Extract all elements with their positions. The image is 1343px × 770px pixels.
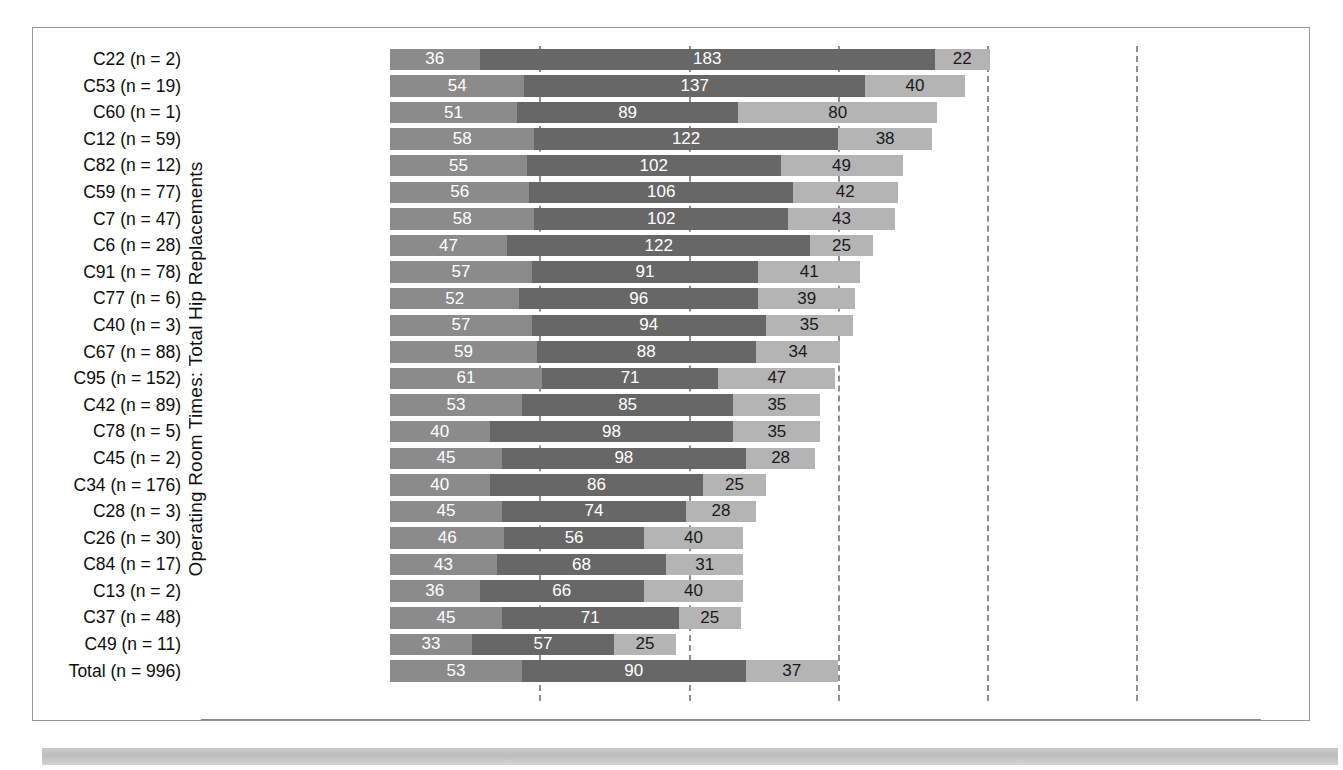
bar-segment-2: 122 bbox=[507, 235, 811, 257]
bar-segment-1: 43 bbox=[390, 554, 497, 576]
bar-segment-2: 57 bbox=[472, 634, 614, 656]
segment-value-label: 40 bbox=[684, 528, 703, 548]
bar-segment-3: 35 bbox=[733, 394, 820, 416]
segment-value-label: 25 bbox=[725, 475, 744, 495]
stacked-bar: 409835 bbox=[390, 421, 820, 443]
row-label: C28 (n = 3) bbox=[93, 498, 189, 525]
segment-value-label: 94 bbox=[639, 315, 658, 335]
bar-segment-3: 25 bbox=[679, 607, 741, 629]
chart-rows: C22 (n = 2)3618322C53 (n = 19)5413740C60… bbox=[33, 46, 1311, 684]
bar-segment-1: 57 bbox=[390, 315, 532, 337]
chart-row: Total (n = 996)539037 bbox=[33, 658, 1311, 685]
stacked-bar: 5812238 bbox=[390, 128, 932, 150]
chart-row: C12 (n = 59)5812238 bbox=[33, 126, 1311, 153]
row-label: C6 (n = 28) bbox=[93, 232, 189, 259]
bar-segment-1: 58 bbox=[390, 128, 534, 150]
segment-value-label: 122 bbox=[672, 129, 700, 149]
stacked-bar: 4712225 bbox=[390, 235, 873, 257]
row-label: C82 (n = 12) bbox=[83, 152, 189, 179]
segment-value-label: 53 bbox=[446, 395, 465, 415]
chart-row: C6 (n = 28)4712225 bbox=[33, 232, 1311, 259]
chart-row: C26 (n = 30)465640 bbox=[33, 525, 1311, 552]
chart-row: C45 (n = 2)459828 bbox=[33, 445, 1311, 472]
bar-segment-2: 122 bbox=[534, 128, 838, 150]
bar-segment-3: 31 bbox=[666, 554, 743, 576]
chart-row: C60 (n = 1)518980 bbox=[33, 99, 1311, 126]
row-label: C49 (n = 11) bbox=[85, 631, 189, 658]
bar-segment-2: 102 bbox=[534, 208, 788, 230]
segment-value-label: 61 bbox=[456, 368, 475, 388]
segment-value-label: 47 bbox=[767, 368, 786, 388]
segment-value-label: 59 bbox=[454, 342, 473, 362]
bar-segment-3: 34 bbox=[756, 341, 841, 363]
row-label: C67 (n = 88) bbox=[83, 339, 189, 366]
segment-value-label: 102 bbox=[640, 156, 668, 176]
stacked-bar: 408625 bbox=[390, 474, 766, 496]
segment-value-label: 39 bbox=[797, 289, 816, 309]
chart-row: C95 (n = 152)617147 bbox=[33, 365, 1311, 392]
bar-segment-1: 56 bbox=[390, 182, 529, 204]
row-label: C45 (n = 2) bbox=[93, 445, 189, 472]
bar-segment-1: 36 bbox=[390, 49, 480, 71]
figure-frame: C22 (n = 2)3618322C53 (n = 19)5413740C60… bbox=[32, 27, 1310, 721]
segment-value-label: 56 bbox=[565, 528, 584, 548]
bar-segment-2: 68 bbox=[497, 554, 666, 576]
bar-segment-1: 55 bbox=[390, 155, 527, 177]
chart-plot-area: C22 (n = 2)3618322C53 (n = 19)5413740C60… bbox=[33, 28, 1311, 722]
segment-value-label: 98 bbox=[614, 448, 633, 468]
bar-segment-3: 49 bbox=[781, 155, 903, 177]
chart-row: C49 (n = 11)335725 bbox=[33, 631, 1311, 658]
segment-value-label: 66 bbox=[552, 581, 571, 601]
segment-value-label: 68 bbox=[572, 555, 591, 575]
row-label: C59 (n = 77) bbox=[83, 179, 189, 206]
bar-segment-1: 36 bbox=[390, 580, 480, 602]
bar-segment-3: 38 bbox=[838, 128, 933, 150]
segment-value-label: 35 bbox=[767, 422, 786, 442]
bar-segment-2: 71 bbox=[542, 368, 719, 390]
bar-segment-3: 25 bbox=[810, 235, 872, 257]
segment-value-label: 57 bbox=[534, 634, 553, 654]
bar-segment-3: 35 bbox=[766, 315, 853, 337]
row-label: C78 (n = 5) bbox=[93, 418, 189, 445]
bar-segment-3: 25 bbox=[614, 634, 676, 656]
segment-value-label: 36 bbox=[425, 581, 444, 601]
bar-segment-1: 54 bbox=[390, 75, 524, 97]
total-row-separator bbox=[201, 719, 1261, 720]
segment-value-label: 36 bbox=[425, 49, 444, 69]
segment-value-label: 54 bbox=[448, 76, 467, 96]
row-label: C91 (n = 78) bbox=[83, 259, 189, 286]
segment-value-label: 46 bbox=[438, 528, 457, 548]
bar-segment-3: 40 bbox=[644, 527, 744, 549]
bar-segment-2: 88 bbox=[537, 341, 756, 363]
bar-segment-1: 51 bbox=[390, 102, 517, 124]
bar-segment-3: 28 bbox=[746, 448, 816, 470]
bar-segment-1: 61 bbox=[390, 368, 542, 390]
bar-segment-3: 41 bbox=[758, 261, 860, 283]
chart-row: C22 (n = 2)3618322 bbox=[33, 46, 1311, 73]
bar-segment-3: 80 bbox=[738, 102, 937, 124]
segment-value-label: 31 bbox=[695, 555, 714, 575]
bar-segment-3: 39 bbox=[758, 288, 855, 310]
stacked-bar: 617147 bbox=[390, 368, 835, 390]
bar-segment-1: 53 bbox=[390, 660, 522, 682]
segment-value-label: 40 bbox=[430, 475, 449, 495]
segment-value-label: 85 bbox=[618, 395, 637, 415]
bar-segment-1: 46 bbox=[390, 527, 504, 549]
row-label: C42 (n = 89) bbox=[83, 392, 189, 419]
row-label: Total (n = 996) bbox=[69, 658, 189, 685]
bar-segment-2: 137 bbox=[524, 75, 865, 97]
bar-segment-1: 33 bbox=[390, 634, 472, 656]
bar-segment-2: 94 bbox=[532, 315, 766, 337]
segment-value-label: 57 bbox=[451, 262, 470, 282]
segment-value-label: 33 bbox=[422, 634, 441, 654]
bar-segment-3: 28 bbox=[686, 501, 756, 523]
segment-value-label: 43 bbox=[434, 555, 453, 575]
bar-segment-2: 96 bbox=[519, 288, 758, 310]
segment-value-label: 37 bbox=[782, 661, 801, 681]
chart-row: C82 (n = 12)5510249 bbox=[33, 152, 1311, 179]
chart-row: C37 (n = 48)457125 bbox=[33, 604, 1311, 631]
row-label: C53 (n = 19) bbox=[83, 73, 189, 100]
bar-segment-3: 43 bbox=[788, 208, 895, 230]
bar-segment-2: 106 bbox=[529, 182, 793, 204]
stacked-bar: 459828 bbox=[390, 448, 815, 470]
